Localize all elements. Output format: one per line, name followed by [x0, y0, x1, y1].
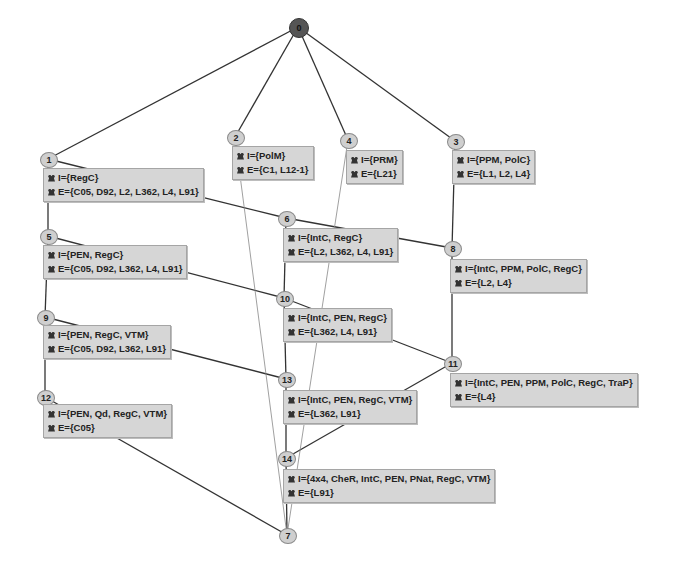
node-label-2: I={PolM}E={C1, L12-1}: [232, 146, 314, 180]
intent-row-text: I={RegC}: [58, 171, 98, 185]
intent-row: I={PEN, RegC}: [48, 248, 182, 262]
extent-row-text: E={L362, L4, L91}: [298, 325, 377, 339]
node-6[interactable]: 6: [278, 211, 296, 227]
extent-row: E={L4}: [455, 390, 633, 404]
bug-icon: [48, 425, 55, 432]
bug-icon: [48, 411, 55, 418]
node-7[interactable]: 7: [279, 528, 297, 544]
node-label-5: I={PEN, RegC}E={C05, D92, L362, L4, L91}: [43, 245, 187, 279]
bug-icon: [48, 332, 55, 339]
node-label-11: I={IntC, PEN, PPM, PolC, RegC, TraP}E={L…: [450, 373, 638, 407]
intent-row: I={PolM}: [237, 149, 309, 163]
bug-icon: [48, 346, 55, 353]
bug-icon: [288, 411, 295, 418]
bug-icon: [455, 266, 462, 273]
extent-row-text: E={L362, L91}: [298, 407, 361, 421]
node-8[interactable]: 8: [444, 241, 462, 257]
extent-row: E={L2, L362, L4, L91}: [288, 245, 393, 259]
edge-0-4: [298, 27, 348, 140]
node-5[interactable]: 5: [40, 229, 58, 245]
extent-row: E={L1, L2, L4}: [457, 167, 530, 181]
node-label-4: I={PRM}E={L21}: [346, 150, 403, 184]
node-label-3: I={PPM, PolC}E={L1, L2, L4}: [452, 150, 535, 184]
extent-row: E={L362, L91}: [288, 407, 412, 421]
bug-icon: [288, 329, 295, 336]
extent-row-text: E={L21}: [361, 167, 397, 181]
extent-row: E={L362, L4, L91}: [288, 325, 387, 339]
node-label-10: I={IntC, PEN, RegC}E={L362, L4, L91}: [283, 308, 392, 342]
intent-row-text: I={IntC, PEN, RegC}: [298, 311, 387, 325]
node-14[interactable]: 14: [278, 451, 296, 467]
node-label-14: I={4x4, CheR, IntC, PEN, PNat, RegC, VTM…: [283, 469, 495, 503]
edge-2-7: [235, 137, 287, 535]
extent-row-text: E={C05, D92, L362, L4, L91}: [58, 262, 182, 276]
node-label-12: I={PEN, Qd, RegC, VTM}E={C05}: [43, 404, 172, 438]
node-13[interactable]: 13: [278, 372, 296, 388]
extent-row: E={L2, L4}: [455, 276, 582, 290]
extent-row-text: E={L2, L4}: [465, 276, 512, 290]
intent-row-text: I={4x4, CheR, IntC, PEN, PNat, RegC, VTM…: [298, 472, 490, 486]
intent-row-text: I={PPM, PolC}: [467, 153, 530, 167]
intent-row-text: I={IntC, RegC}: [298, 231, 362, 245]
intent-row-text: I={PRM}: [361, 153, 398, 167]
node-11[interactable]: 11: [444, 356, 462, 372]
concept-lattice-diagram: 01I={RegC}E={C05, D92, L2, L362, L4, L91…: [0, 0, 695, 571]
intent-row-text: I={PolM}: [247, 149, 285, 163]
bug-icon: [48, 175, 55, 182]
bug-icon: [455, 380, 462, 387]
bug-icon: [457, 157, 464, 164]
bug-icon: [237, 167, 244, 174]
intent-row: I={PRM}: [351, 153, 398, 167]
node-label-8: I={IntC, PPM, PolC, RegC}E={L2, L4}: [450, 259, 587, 293]
node-9[interactable]: 9: [37, 310, 55, 326]
node-3[interactable]: 3: [447, 134, 465, 150]
intent-row: I={IntC, RegC}: [288, 231, 393, 245]
intent-row: I={PEN, Qd, RegC, VTM}: [48, 407, 167, 421]
bug-icon: [351, 171, 358, 178]
intent-row: I={IntC, PEN, RegC}: [288, 311, 387, 325]
node-10[interactable]: 10: [276, 291, 294, 307]
bug-icon: [288, 476, 295, 483]
bug-icon: [351, 157, 358, 164]
bug-icon: [288, 249, 295, 256]
extent-row-text: E={L4}: [465, 390, 495, 404]
intent-row: I={IntC, PEN, PPM, PolC, RegC, TraP}: [455, 376, 633, 390]
extent-row: E={L91}: [288, 486, 490, 500]
extent-row-text: E={C05, D92, L2, L362, L4, L91}: [58, 185, 199, 199]
extent-row-text: E={L91}: [298, 486, 334, 500]
node-4[interactable]: 4: [340, 133, 358, 149]
extent-row-text: E={C1, L12-1}: [247, 163, 309, 177]
intent-row: I={4x4, CheR, IntC, PEN, PNat, RegC, VTM…: [288, 472, 490, 486]
intent-row: I={PPM, PolC}: [457, 153, 530, 167]
extent-row-text: E={C05}: [58, 421, 95, 435]
node-0[interactable]: 0: [289, 18, 309, 38]
intent-row-text: I={PEN, RegC, VTM}: [58, 328, 149, 342]
bug-icon: [288, 235, 295, 242]
bug-icon: [455, 394, 462, 401]
bug-icon: [48, 189, 55, 196]
bug-icon: [288, 490, 295, 497]
intent-row-text: I={IntC, PEN, RegC, VTM}: [298, 393, 412, 407]
intent-row: I={PEN, RegC, VTM}: [48, 328, 166, 342]
node-label-6: I={IntC, RegC}E={L2, L362, L4, L91}: [283, 228, 398, 262]
bug-icon: [48, 266, 55, 273]
intent-row-text: I={IntC, PPM, PolC, RegC}: [465, 262, 582, 276]
node-1[interactable]: 1: [40, 152, 58, 168]
extent-row-text: E={C05, D92, L362, L91}: [58, 342, 166, 356]
extent-row: E={C05}: [48, 421, 167, 435]
bug-icon: [288, 397, 295, 404]
intent-row-text: I={IntC, PEN, PPM, PolC, RegC, TraP}: [465, 376, 633, 390]
intent-row: I={RegC}: [48, 171, 199, 185]
bug-icon: [457, 171, 464, 178]
extent-row-text: E={L1, L2, L4}: [467, 167, 530, 181]
bug-icon: [288, 315, 295, 322]
intent-row: I={IntC, PPM, PolC, RegC}: [455, 262, 582, 276]
node-label-1: I={RegC}E={C05, D92, L2, L362, L4, L91}: [43, 168, 204, 202]
intent-row-text: I={PEN, RegC}: [58, 248, 123, 262]
node-label-13: I={IntC, PEN, RegC, VTM}E={L362, L91}: [283, 390, 417, 424]
bug-icon: [237, 153, 244, 160]
extent-row-text: E={L2, L362, L4, L91}: [298, 245, 393, 259]
node-2[interactable]: 2: [227, 130, 245, 146]
bug-icon: [455, 280, 462, 287]
bug-icon: [48, 252, 55, 259]
